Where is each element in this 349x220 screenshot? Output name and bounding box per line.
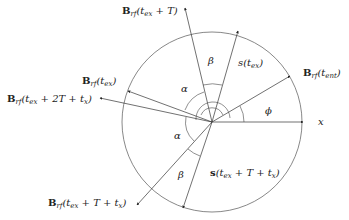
beta-bottom-label: β	[177, 169, 184, 180]
phi-arc	[240, 106, 244, 122]
alpha-top-arc	[185, 92, 204, 110]
phi-label: ϕ	[265, 105, 272, 116]
label-b-tex-plus-t: Brf(tex + T)	[122, 5, 178, 18]
alpha-top-label: α	[181, 83, 188, 94]
beta-top-arc	[203, 84, 222, 85]
label-b-tex-t-tx: Brf(tex + T + tx)	[48, 197, 127, 210]
label-s-tex-t-tx: s(tex + T + tx)	[210, 167, 280, 180]
vector-b-tent	[212, 76, 290, 122]
rotating-field-diagram: β α ϕ α β Brf(tex + T) s(tex) Brf(tent) …	[0, 0, 349, 220]
beta-bottom-arc	[188, 149, 200, 156]
alpha-bottom-arc	[186, 117, 194, 141]
label-s-tex: s(tex)	[238, 57, 263, 70]
inner-arc-2	[201, 108, 223, 115]
alpha-bottom-label: α	[174, 130, 181, 141]
label-b-tex-2t-tx: Brf(tex + 2T + tx)	[7, 93, 92, 106]
label-b-tent: Brf(tent)	[303, 67, 341, 80]
label-x-axis: x	[318, 116, 324, 127]
label-b-tex: Brf(tex)	[82, 75, 116, 88]
beta-top-label: β	[207, 55, 214, 66]
vector-s-tex-t-tx	[183, 122, 212, 208]
